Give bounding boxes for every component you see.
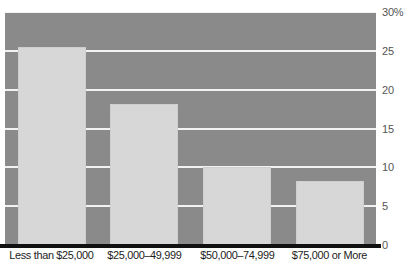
x-axis-label: $50,000–74,999 [193, 249, 281, 261]
bar [203, 167, 271, 245]
bar-chart: 051015202530% Less than $25,000$25,000–4… [0, 0, 416, 269]
x-axis-label: $25,000–49,999 [100, 249, 188, 261]
y-tick-label-15: 15 [382, 123, 394, 135]
bars-layer [5, 12, 376, 245]
bar [296, 181, 364, 245]
bar [110, 104, 178, 245]
bar [18, 47, 86, 245]
x-axis-label: $75,000 or More [286, 249, 374, 261]
x-axis-line [0, 244, 381, 248]
y-tick-label-5: 5 [382, 200, 388, 212]
y-tick-label-30: 30% [382, 6, 403, 18]
y-tick-label-25: 25 [382, 45, 394, 57]
x-axis-category-labels: Less than $25,000$25,000–49,999$50,000–7… [0, 249, 381, 269]
plot-area [5, 12, 376, 245]
y-tick-label-20: 20 [382, 84, 394, 96]
x-axis-label: Less than $25,000 [7, 249, 95, 261]
y-tick-label-10: 10 [382, 161, 394, 173]
y-tick-label-0: 0 [382, 239, 388, 251]
